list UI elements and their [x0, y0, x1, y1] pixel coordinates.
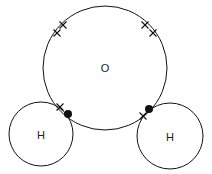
hydrogen-electron-dot-icon: [64, 110, 72, 118]
oxygen-electron-cross-icon: [150, 30, 157, 37]
water-molecule-diagram: O H H: [0, 0, 212, 174]
hydrogen-electron-dot-icon: [145, 105, 153, 113]
oxygen-electron-cross-icon: [54, 30, 61, 37]
oxygen-bonding-electron-cross-icon: [140, 113, 147, 120]
oxygen-label: O: [101, 62, 110, 74]
hydrogen-right-label: H: [166, 131, 174, 143]
hydrogen-left-label: H: [37, 129, 45, 141]
oxygen-electron-cross-icon: [142, 22, 149, 29]
